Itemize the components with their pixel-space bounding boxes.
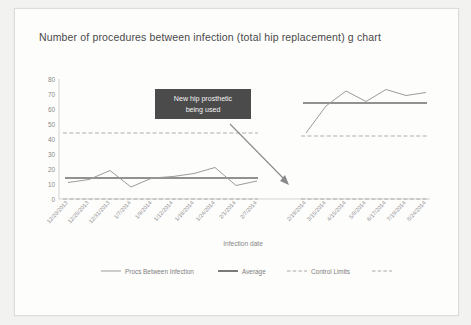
x-tick-label: 5/8/2014 [348,200,367,220]
y-tick-label: 70 [48,91,56,98]
y-axis-ticks: 80 70 60 50 40 30 20 10 0 [48,76,56,203]
x-tick-label: 6/17/2014 [366,200,387,223]
annotation-callout[interactable]: New hip prosthetic being used [155,89,251,119]
x-tick-label: 4/15/2014 [326,200,347,223]
x-tick-label: 1/24/2014 [195,200,216,223]
slide-surface: Number of procedures between infection (… [14,8,459,316]
x-tick-label: 2/1/2014 [218,200,237,220]
x-tick-label: 7/19/2014 [386,200,407,223]
legend-label-average: Average [242,268,266,276]
x-tick-label: 12/31/2013 [88,200,111,225]
x-tick-label: 1/9/2014 [134,200,153,220]
x-axis-ticks-before: 12/20/2013 12/25/2013 12/31/2013 1/7/201… [46,200,258,225]
legend-label-control-limits: Control Limits [311,268,350,275]
x-axis-title: Infection date [223,240,263,247]
y-tick-label: 30 [48,151,56,158]
x-tick-label: 12/20/2013 [46,200,69,225]
y-tick-label: 80 [48,76,56,83]
g-chart: 80 70 60 50 40 30 20 10 0 [15,9,458,315]
x-tick-label: 12/25/2013 [67,200,90,225]
screenshot-canvas: Number of procedures between infection (… [0,0,471,325]
callout-box [155,89,251,119]
y-tick-label: 40 [48,136,56,143]
y-tick-label: 0 [51,196,55,203]
legend-label-procs: Procs Between Infection [125,268,194,275]
series-line-after [306,90,426,134]
x-axis-ticks-after: 2/19/2014 3/15/2014 4/15/2014 5/8/2014 6… [286,200,427,223]
x-tick-label: 1/7/2014 [113,200,132,220]
chart-legend: Procs Between Infection Average Control … [101,268,392,276]
x-tick-label: 8/24/2014 [406,200,427,223]
callout-line-1: New hip prosthetic [174,95,233,103]
x-tick-label: 2/7/2014 [239,200,258,220]
x-tick-label: 3/15/2014 [306,200,327,223]
callout-arrow [230,124,289,185]
x-tick-label: 1/16/2014 [174,200,195,223]
callout-line-2: being used [186,106,221,114]
y-tick-label: 20 [48,166,56,173]
x-tick-label: 2/19/2014 [286,200,307,223]
x-tick-label: 1/12/2014 [153,200,174,223]
y-tick-label: 50 [48,121,56,128]
y-tick-label: 10 [48,181,56,188]
y-tick-label: 60 [48,106,56,113]
